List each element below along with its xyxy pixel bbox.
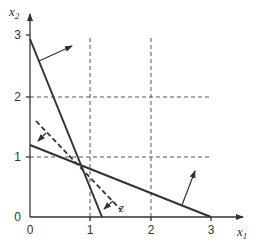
y-axis-label: x2 (8, 4, 20, 21)
y-tick-1: 1 (14, 150, 21, 164)
objective-arrow-upper (38, 133, 46, 141)
axes (26, 14, 243, 221)
lp-diagram: 0 1 2 3 0 1 2 3 x2 x1 z (0, 0, 258, 243)
objective-label-z: z (118, 200, 124, 215)
x-axis-label: x1 (236, 224, 247, 241)
constraint-line-1 (30, 39, 102, 217)
x-tick-0: 0 (27, 223, 34, 237)
objective-arrow-lower (104, 201, 113, 209)
x-tick-1: 1 (87, 223, 94, 237)
x-tick-2: 2 (148, 223, 155, 237)
y-tick-3: 3 (14, 28, 21, 42)
y-tick-0: 0 (14, 210, 21, 224)
grid-lines (30, 35, 210, 217)
constraint-1-direction-arrow (39, 46, 72, 61)
x-tick-3: 3 (208, 223, 215, 237)
diagram-canvas: 0 1 2 3 0 1 2 3 x2 x1 z (0, 0, 258, 243)
y-tick-2: 2 (14, 90, 21, 104)
constraint-2-direction-arrow (182, 171, 195, 205)
objective-line-z (36, 121, 121, 210)
